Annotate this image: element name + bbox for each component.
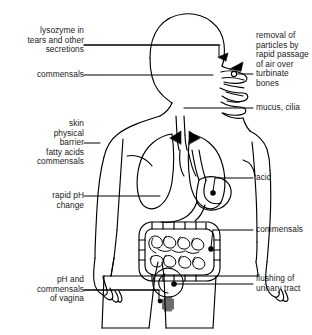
heart <box>180 150 196 176</box>
label-lysozyme: lysozyme in tears and other secretions <box>2 26 84 55</box>
label-commensals-upper: commensals <box>2 70 84 80</box>
oesophagus <box>192 150 206 180</box>
facial-profile <box>220 62 248 118</box>
large-intestine <box>139 222 220 281</box>
leader-lines-left <box>84 45 220 301</box>
duodenum <box>161 202 197 222</box>
duodenum-inner <box>195 205 205 221</box>
label-rapid-ph-change: rapid pH change <box>2 191 84 210</box>
bronchus-left-arrow <box>170 131 181 144</box>
label-removal-particles: removal of particles by rapid passage of… <box>256 31 312 89</box>
label-mucus-cilia: mucus, cilia <box>256 103 312 113</box>
lungs <box>137 134 225 209</box>
label-ph-vagina: pH and commensals of vagina <box>2 275 84 304</box>
urethra <box>163 297 173 311</box>
bladder <box>153 268 183 297</box>
bronchus-right-arrow <box>189 131 200 144</box>
head-outline <box>150 14 230 103</box>
label-skin: skin physical barrier fatty acids commen… <box>2 119 84 167</box>
chest-contours <box>127 155 255 176</box>
leader-lysozyme <box>84 45 219 56</box>
label-commensals-gut: commensals <box>256 225 312 235</box>
label-flushing-urinary: flushing of urinary tract <box>256 274 312 293</box>
label-acid: acid <box>256 173 312 183</box>
turbinate-anchor <box>231 71 236 76</box>
